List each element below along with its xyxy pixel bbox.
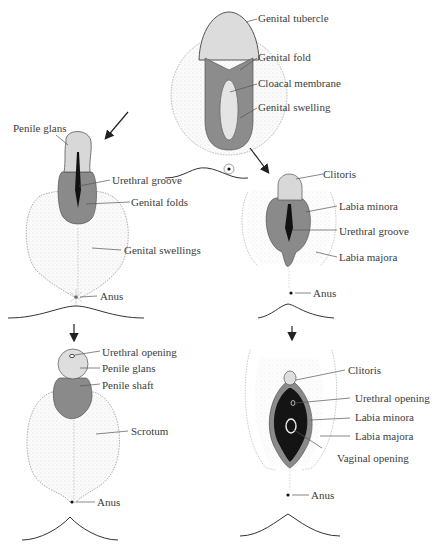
label-penile-shaft: Penile shaft <box>102 379 154 391</box>
male-final-drawing <box>22 349 128 540</box>
label-clitoris-final: Clitoris <box>348 364 381 376</box>
label-genital-folds: Genital folds <box>131 196 188 208</box>
label-anus-male-final: Anus <box>97 496 120 508</box>
female-final-drawing <box>240 350 350 536</box>
label-genital-tubercle: Genital tubercle <box>258 12 329 24</box>
label-urethral-groove: Urethral groove <box>112 174 182 186</box>
clitoris-shape-final <box>284 371 296 385</box>
label-scrotum: Scrotum <box>131 425 168 437</box>
urethral-opening-shape <box>70 354 75 357</box>
arrow-to-female <box>250 148 268 172</box>
cloacal-membrane-shape <box>220 80 238 140</box>
arrow-to-male <box>106 112 128 138</box>
label-genital-swelling: Genital swelling <box>258 101 330 113</box>
male-intermediate-drawing <box>8 132 144 319</box>
indifferent-stage-drawing <box>165 12 287 178</box>
label-labia-minora-final: Labia minora <box>355 411 414 423</box>
diagram-artwork <box>0 0 441 549</box>
label-anus-female-intermediate: Anus <box>313 287 336 299</box>
label-penile-glans-final: Penile glans <box>102 362 155 374</box>
label-urethral-opening: Urethral opening <box>102 346 177 358</box>
genital-tubercle-shape <box>199 12 259 60</box>
label-genital-swellings: Genital swellings <box>124 244 201 256</box>
clitoris-shape <box>278 174 302 200</box>
label-labia-majora-final: Labia majora <box>355 430 413 442</box>
label-anus-male-intermediate: Anus <box>100 290 123 302</box>
label-clitoris: Clitoris <box>323 168 356 180</box>
label-labia-minora: Labia minora <box>339 200 398 212</box>
label-penile-glans: Penile glans <box>13 122 66 134</box>
label-urethral-opening-female: Urethral opening <box>355 392 430 404</box>
label-urethral-groove-female: Urethral groove <box>339 225 409 237</box>
label-anus-female-final: Anus <box>311 489 334 501</box>
label-cloacal-membrane: Cloacal membrane <box>258 77 341 89</box>
label-genital-fold: Genital fold <box>258 51 311 63</box>
label-labia-majora: Labia majora <box>339 251 397 263</box>
label-vaginal-opening: Vaginal opening <box>337 452 409 464</box>
